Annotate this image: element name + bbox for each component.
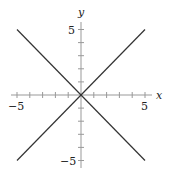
y-tick-label-min: −5 [60,155,76,168]
y-tick-label-max: 5 [68,24,75,37]
x-tick-label-max: 5 [141,100,148,113]
x-tick-label-min: −5 [8,100,24,113]
y-axis-label: y [77,6,85,19]
plot: x y −5 5 5 −5 [0,0,172,182]
x-axis-label: x [156,89,163,102]
